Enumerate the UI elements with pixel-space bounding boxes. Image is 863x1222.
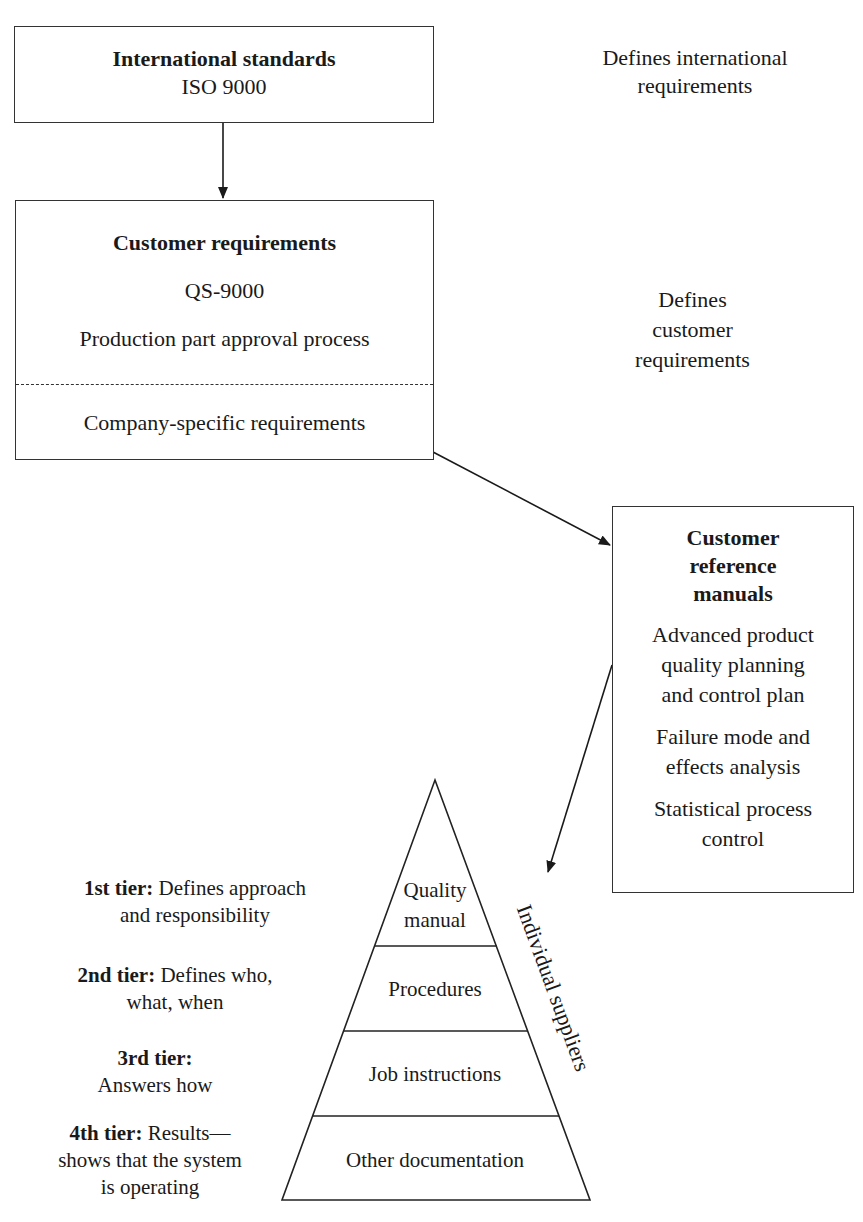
tier-line: 4th tier: Results—	[30, 1120, 270, 1147]
international-standards-title: International standards	[15, 45, 433, 73]
item-line: Failure mode and	[613, 722, 853, 752]
tier-4-description: 4th tier: Results— shows that the system…	[30, 1120, 270, 1201]
arrow-manuals-to-suppliers	[548, 665, 612, 872]
tier-label: 4th tier:	[70, 1121, 143, 1145]
tier-text: and responsibility	[40, 902, 350, 929]
fmea-item: Failure mode and effects analysis	[613, 722, 853, 782]
tier-3-description: 3rd tier: Answers how	[40, 1045, 270, 1099]
tier-label: 3rd tier:	[40, 1045, 270, 1072]
tier-text: Answers how	[40, 1072, 270, 1099]
item-line: control	[613, 824, 853, 854]
qs-9000-label: QS-9000	[16, 277, 433, 305]
note-line: requirements	[600, 345, 785, 375]
note-line: requirements	[560, 72, 830, 100]
apqp-item: Advanced product quality planning and co…	[613, 620, 853, 710]
tier-label: 2nd tier:	[78, 963, 156, 987]
tier-text: is operating	[30, 1174, 270, 1201]
international-requirements-note: Defines international requirements	[560, 44, 830, 100]
tier-line: 1st tier: Defines approach	[40, 875, 350, 902]
international-standards-box: International standards ISO 9000	[14, 26, 434, 123]
customer-requirements-note: Defines customer requirements	[600, 285, 785, 375]
ppap-label: Production part approval process	[16, 325, 433, 353]
arrow-customer-to-manuals	[433, 452, 610, 545]
note-line: Defines	[600, 285, 785, 315]
manuals-title: Customer reference manuals	[613, 524, 853, 608]
level-line: manual	[385, 905, 485, 935]
note-line: Defines international	[560, 44, 830, 72]
customer-requirements-title: Customer requirements	[16, 229, 433, 257]
item-line: and control plan	[613, 680, 853, 710]
tier-1-description: 1st tier: Defines approach and responsib…	[40, 875, 350, 929]
customer-requirements-box: Customer requirements QS-9000 Production…	[15, 200, 434, 460]
tier-text: Defines who,	[160, 963, 272, 987]
pyramid-level-quality-manual: Quality manual	[385, 875, 485, 935]
tier-text: Defines approach	[159, 876, 307, 900]
level-line: Quality	[385, 875, 485, 905]
title-line: manuals	[613, 580, 853, 608]
note-line: customer	[600, 315, 785, 345]
tier-text: shows that the system	[30, 1147, 270, 1174]
spc-item: Statistical process control	[613, 794, 853, 854]
iso-9000-label: ISO 9000	[15, 73, 433, 101]
tier-label: 1st tier:	[84, 876, 153, 900]
tier-text: what, when	[40, 989, 310, 1016]
pyramid-level-job-instructions: Job instructions	[320, 1062, 550, 1087]
title-line: Customer	[613, 524, 853, 552]
tier-text: Results—	[148, 1121, 231, 1145]
company-specific-label: Company-specific requirements	[16, 409, 433, 437]
tier-2-description: 2nd tier: Defines who, what, when	[40, 962, 310, 1016]
dashed-divider	[16, 384, 433, 385]
item-line: quality planning	[613, 650, 853, 680]
title-line: reference	[613, 552, 853, 580]
pyramid-level-other-documentation: Other documentation	[290, 1148, 580, 1173]
item-line: Statistical process	[613, 794, 853, 824]
customer-reference-manuals-box: Customer reference manuals Advanced prod…	[612, 506, 854, 893]
pyramid-level-procedures: Procedures	[335, 977, 535, 1002]
item-line: effects analysis	[613, 752, 853, 782]
item-line: Advanced product	[613, 620, 853, 650]
tier-line: 2nd tier: Defines who,	[40, 962, 310, 989]
